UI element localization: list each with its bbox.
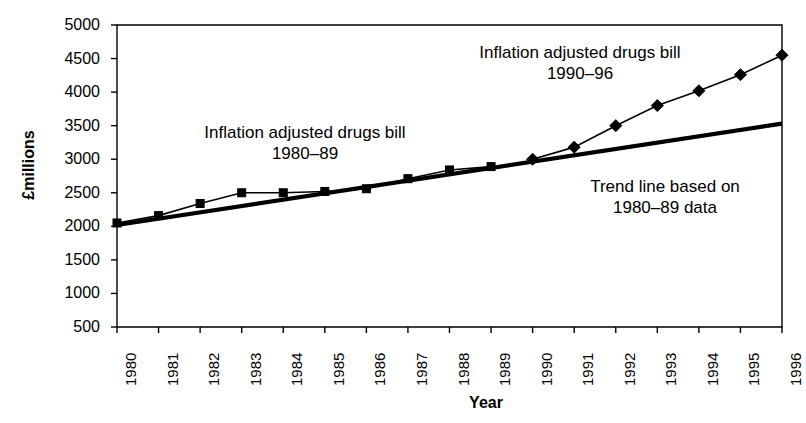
x-axis-tick-label: 1990 xyxy=(539,353,554,386)
x-axis-tick-label: 1986 xyxy=(372,353,387,386)
data-point-marker xyxy=(734,69,746,81)
data-point-marker xyxy=(238,189,246,197)
data-point-marker xyxy=(693,85,705,97)
x-axis-tick-label: 1985 xyxy=(331,353,346,386)
x-axis-label: Year xyxy=(0,394,806,412)
x-axis-tick-label: 1982 xyxy=(206,353,221,386)
data-point-marker xyxy=(776,49,788,61)
data-point-marker xyxy=(279,189,287,197)
data-point-marker xyxy=(196,200,204,208)
chart-figure: £millions 500045004000350030002500200015… xyxy=(0,0,806,423)
annotation-series-1990-96: Inflation adjusted drugs bill 1990–96 xyxy=(430,42,730,84)
data-point-marker xyxy=(568,141,580,153)
annotation-trend-line: Trend line based on 1980–89 data xyxy=(545,176,785,218)
x-axis-tick-label: 1987 xyxy=(414,353,429,386)
x-axis-tick-label: 1981 xyxy=(165,353,180,386)
x-axis-tick-label: 1984 xyxy=(289,353,304,386)
data-point-marker xyxy=(610,120,622,132)
x-axis-tick-label: 1988 xyxy=(456,353,471,386)
x-axis-tick-label: 1996 xyxy=(788,353,803,386)
x-axis-tick-label: 1992 xyxy=(622,353,637,386)
x-axis-tick-label: 1989 xyxy=(497,353,512,386)
x-axis-tick-label: 1983 xyxy=(248,353,263,386)
x-axis-tick-label: 1995 xyxy=(746,353,761,386)
x-axis-tick-label: 1991 xyxy=(580,353,595,386)
x-axis-tick-label: 1980 xyxy=(123,353,138,386)
data-point-marker xyxy=(651,100,663,112)
x-axis-tick-label: 1993 xyxy=(663,353,678,386)
x-axis-tick-label: 1994 xyxy=(705,353,720,386)
x-axis-label-text: Year xyxy=(469,394,503,411)
annotation-series-1980-89: Inflation adjusted drugs bill 1980–89 xyxy=(155,122,455,164)
